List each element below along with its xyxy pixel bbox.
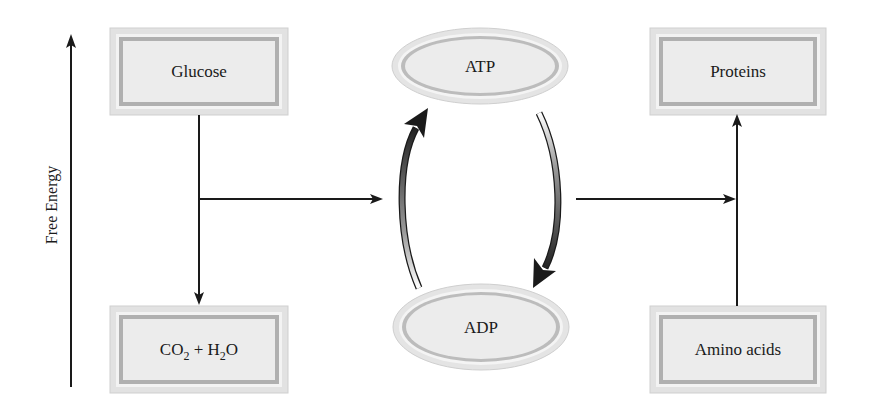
edge-atp-to-adp: [533, 113, 558, 288]
node-glucose: Glucose: [110, 28, 288, 115]
node-atp-label: ATP: [465, 57, 495, 76]
edge-glucose-to-co2-h2o: [194, 115, 204, 305]
free-energy-axis: Free Energy: [43, 34, 76, 387]
node-atp: ATP: [392, 28, 568, 104]
node-amino-acids-label: Amino acids: [695, 340, 781, 359]
free-energy-coupling-diagram: Free Energy Glucose CO2 + H2O Proteins A…: [0, 0, 880, 416]
node-glucose-label: Glucose: [171, 62, 227, 81]
edge-amino-acids-to-proteins: [732, 114, 742, 306]
node-proteins-label: Proteins: [710, 62, 766, 81]
node-adp-label: ADP: [464, 318, 498, 337]
edge-adp-to-atp: [402, 108, 428, 288]
node-amino-acids: Amino acids: [650, 306, 826, 393]
node-co2-h2o: CO2 + H2O: [110, 306, 288, 393]
node-proteins: Proteins: [650, 28, 826, 115]
node-adp: ADP: [393, 284, 569, 370]
edge-cycle-to-protein-synthesis: [576, 194, 736, 204]
edge-glucose-branch-to-cycle: [199, 194, 383, 204]
free-energy-axis-label: Free Energy: [43, 166, 61, 244]
